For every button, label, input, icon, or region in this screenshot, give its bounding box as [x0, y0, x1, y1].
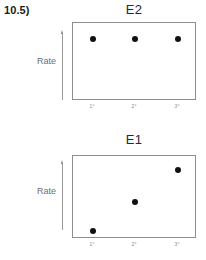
y-axis-label-e1: Rate	[16, 186, 56, 196]
y-axis-label-e2: Rate	[16, 56, 56, 66]
chart-panel-e1: E1 Rate 1° 2° 3°	[0, 130, 206, 260]
chart-panel-e2: E2 Rate 1° 2° 3°	[0, 0, 206, 130]
x-tick-label: 3°	[174, 103, 179, 109]
x-tick-label: 2°	[131, 241, 136, 247]
data-point	[90, 228, 96, 234]
arrow-shaft	[62, 163, 63, 230]
data-point	[175, 36, 181, 42]
x-tick-label: 2°	[131, 103, 136, 109]
plot-area-e2	[72, 22, 196, 100]
y-axis-arrow-e2	[61, 30, 64, 100]
data-point	[132, 36, 138, 42]
figure-canvas: 10.5) E2 Rate 1° 2° 3° E1 Rate	[0, 0, 206, 260]
plot-area-e1	[72, 155, 196, 238]
data-point	[175, 167, 181, 173]
chart-title-e1: E1	[72, 132, 196, 147]
chart-title-e2: E2	[72, 2, 196, 17]
x-tick-label: 1°	[89, 241, 94, 247]
data-point	[90, 36, 96, 42]
y-axis-arrow-e1	[61, 160, 64, 230]
data-point	[132, 199, 138, 205]
arrow-shaft	[62, 33, 63, 100]
x-tick-label: 3°	[174, 241, 179, 247]
x-tick-label: 1°	[89, 103, 94, 109]
